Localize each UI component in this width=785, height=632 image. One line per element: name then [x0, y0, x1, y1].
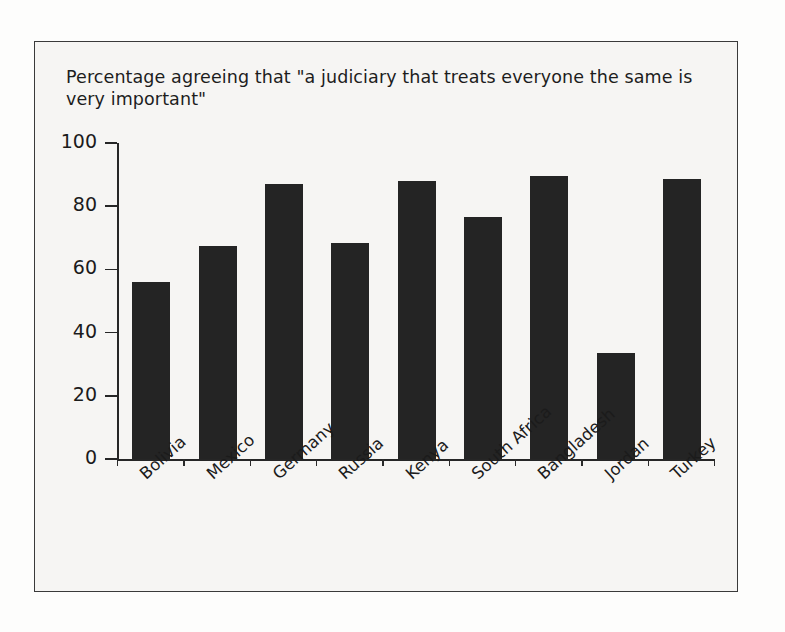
bar [398, 181, 436, 459]
bar [663, 179, 701, 459]
y-axis-tick [105, 458, 117, 460]
y-axis-tick-label: 40 [35, 322, 97, 341]
bar [464, 217, 502, 459]
y-axis-tick [105, 269, 117, 271]
x-axis-labels: BoliviaMexicoGermanyRussiaKenyaSouth Afr… [117, 463, 737, 583]
y-axis-tick [105, 205, 117, 207]
y-axis-tick-label: 20 [35, 385, 97, 404]
bar [132, 282, 170, 459]
bar [265, 184, 303, 459]
y-axis-tick-label: 80 [35, 195, 97, 214]
figure-frame: Percentage agreeing that "a judiciary th… [34, 41, 738, 592]
page-canvas: Percentage agreeing that "a judiciary th… [0, 0, 785, 632]
y-axis-tick [105, 332, 117, 334]
bars-layer [118, 143, 714, 459]
y-axis-tick-label: 0 [35, 448, 97, 467]
chart-title: Percentage agreeing that "a judiciary th… [66, 66, 696, 110]
bar [331, 243, 369, 459]
y-axis-tick-label: 60 [35, 258, 97, 277]
y-axis-tick [105, 395, 117, 397]
y-axis-tick [105, 142, 117, 144]
bar [199, 246, 237, 459]
y-axis-tick-label: 100 [35, 132, 97, 151]
